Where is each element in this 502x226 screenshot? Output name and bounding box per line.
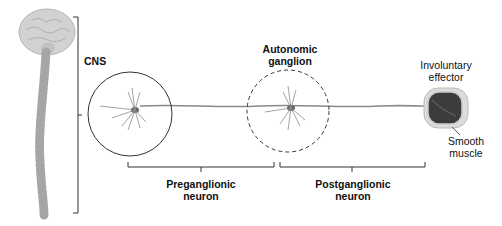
postganglionic-cell-body-icon	[265, 86, 305, 130]
ganglion-circle	[247, 70, 329, 152]
ganglion-label-line1: Autonomic	[250, 43, 330, 55]
postganglionic-bracket	[280, 162, 425, 172]
post-label-line2: neuron	[305, 190, 401, 202]
pre-label-line1: Preganglionic	[156, 178, 246, 190]
brain-spinal-cord-illustration	[19, 9, 75, 215]
cns-circle	[88, 72, 172, 156]
muscle-label-line2: muscle	[436, 147, 496, 159]
pre-label-line2: neuron	[156, 190, 246, 202]
effector-label-line1: Involuntary	[408, 59, 484, 71]
cns-bracket	[73, 17, 82, 213]
axon-line	[140, 105, 424, 106]
involuntary-effector-label: Involuntary effector	[408, 59, 484, 83]
cns-label: CNS	[84, 55, 124, 67]
muscle-label-line1: Smooth	[436, 135, 496, 147]
autonomic-ganglion-label: Autonomic ganglion	[250, 43, 330, 67]
preganglionic-neuron-label: Preganglionic neuron	[156, 178, 246, 202]
post-label-line1: Postganglionic	[305, 178, 401, 190]
preganglionic-cell-body-icon	[100, 88, 146, 130]
postganglionic-neuron-label: Postganglionic neuron	[305, 178, 401, 202]
ganglion-label-line2: ganglion	[250, 55, 330, 67]
smooth-muscle-label: Smooth muscle	[436, 135, 496, 159]
diagram-canvas	[0, 0, 502, 226]
smooth-muscle-effector-icon	[424, 88, 468, 128]
effector-label-line2: effector	[408, 71, 484, 83]
cns-label-text: CNS	[84, 55, 106, 67]
preganglionic-bracket	[128, 162, 274, 172]
